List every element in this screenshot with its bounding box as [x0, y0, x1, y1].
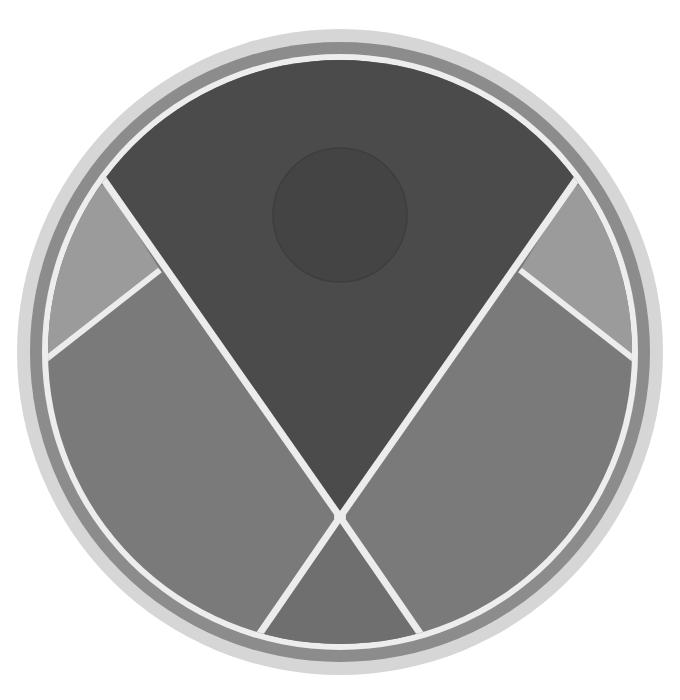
caption-text — [120, 690, 540, 700]
center-junction — [334, 511, 346, 523]
circular-emblem — [0, 0, 680, 700]
top-inner-circle — [273, 148, 407, 282]
